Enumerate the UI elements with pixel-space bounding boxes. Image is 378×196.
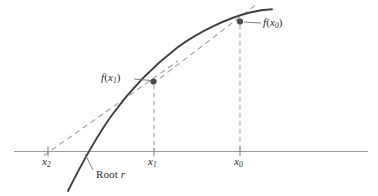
- tangent-line-at-x0: [153, 4, 258, 84]
- root-leader-line: [85, 154, 93, 170]
- point-label-fx1: f(x1): [101, 72, 121, 83]
- point-marker-fx1: [150, 78, 156, 84]
- point-label-fx0-sub: 0: [275, 21, 279, 30]
- point-marker-fx0: [237, 18, 243, 24]
- axis-label-x1-sub: 1: [153, 160, 157, 169]
- axis-label-x0-sub: 0: [239, 160, 243, 169]
- point-label-fx1-close: ): [117, 71, 121, 83]
- newton-method-figure: x2 x1 x0 f(x1) f(x0) Root r: [0, 0, 378, 196]
- axis-label-x0: x0: [234, 156, 243, 167]
- axis-label-x2-sub: 2: [47, 160, 51, 169]
- point-label-fx0: f(x0): [263, 17, 283, 28]
- point-label-fx0-close: ): [279, 16, 283, 28]
- root-label: Root r: [96, 169, 125, 180]
- point-label-fx1-sub: 1: [113, 76, 117, 85]
- root-label-word: Root: [96, 168, 118, 180]
- root-label-symbol: r: [121, 168, 125, 180]
- axis-label-x1: x1: [148, 156, 157, 167]
- axis-label-x2: x2: [42, 156, 51, 167]
- newton-method-diagram: [0, 0, 378, 196]
- fx0-leader-line: [244, 22, 261, 23]
